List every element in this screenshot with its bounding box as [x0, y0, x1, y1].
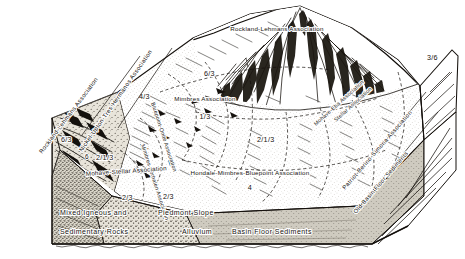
- unit-code-mohave-stellar: 2/1/3: [96, 153, 114, 162]
- block-diagram-figure: Rockland-Lehmans Association 6/3 6/3 6 4…: [0, 0, 465, 259]
- unit-label-mimbres-name: Mimbres Association: [174, 95, 236, 102]
- legend-label-bedrock-line1: Mixed Igneous and: [60, 209, 127, 217]
- unit-code-hondale: 4: [248, 183, 252, 192]
- unit-code-mountain-upper-slope: 6/3: [204, 69, 215, 78]
- unit-code-lower-center: 2/3: [163, 192, 174, 201]
- legend-label-bedrock-line2: Sedimentary Rocks: [60, 228, 128, 236]
- block-diagram-canvas: Rockland-Lehmans Association 6/3 6/3 6 4…: [0, 0, 465, 259]
- legend-label-basin: Basin Floor Sediments: [232, 228, 312, 235]
- unit-code-mimbres: 1/3: [200, 112, 211, 121]
- unit-code-right-edge-block: 3/6: [427, 53, 438, 62]
- legend-label-basin-line2: Basin Floor Sediments: [232, 228, 312, 235]
- legend-label-piedmont-line2: Alluvium: [182, 228, 212, 235]
- unit-label-rockland-lehmans: Rockland-Lehmans Association: [230, 25, 324, 32]
- unit-code-left-mountain: 6/3: [61, 135, 72, 144]
- unit-code-upper-fan: 4/3: [139, 92, 150, 101]
- unit-code-left-mountain-face: 6: [85, 153, 89, 160]
- unit-code-lower-left-fan: 2/3: [122, 193, 133, 202]
- unit-code-right-fan: 2/1/3: [257, 135, 275, 144]
- unit-label-hondale-name: Hondale-Mimbres-Bluepoint Association: [191, 169, 310, 176]
- legend-label-piedmont-line1: Piedmont Slope: [158, 209, 214, 217]
- unit-label-rockland-lehmans-line1: Rockland-Lehmans Association: [230, 25, 324, 32]
